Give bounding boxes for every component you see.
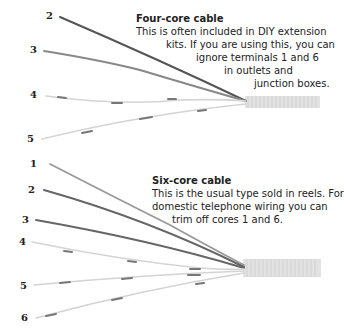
core-label-4b: 4 xyxy=(19,236,26,247)
core-label-6: 6 xyxy=(21,312,28,323)
core-label-5: 5 xyxy=(27,133,34,144)
four-core-caption: Four-core cable This is often included i… xyxy=(136,12,335,90)
four-core-line-3: ignore terminals 1 and 6 xyxy=(136,51,335,64)
four-core-line-4: in outlets and xyxy=(136,64,335,77)
six-core-line-2: domestic telephone wiring you can xyxy=(152,200,344,213)
six-core-sheath xyxy=(243,259,321,277)
six-core-line-1: This is the usual type sold in reels. Fo… xyxy=(152,187,344,200)
core-label-3b: 3 xyxy=(22,214,29,225)
core-label-3: 3 xyxy=(30,44,37,55)
four-core-sheath xyxy=(245,96,320,108)
four-core-title: Four-core cable xyxy=(136,12,335,25)
six-core-title: Six-core cable xyxy=(152,174,344,187)
core-label-2: 2 xyxy=(46,10,53,21)
core-label-2b: 2 xyxy=(28,184,35,195)
six-core-caption: Six-core cable This is the usual type so… xyxy=(152,174,344,226)
core-label-5b: 5 xyxy=(20,280,27,291)
four-core-line-5: junction boxes. xyxy=(136,77,335,90)
four-core-line-2: kits. If you are using this, you can xyxy=(136,38,335,51)
six-core-line-3: trim off cores 1 and 6. xyxy=(152,213,344,226)
core-label-4: 4 xyxy=(30,89,37,100)
four-core-line-1: This is often included in DIY extension xyxy=(136,25,335,38)
core-label-1: 1 xyxy=(30,158,37,169)
